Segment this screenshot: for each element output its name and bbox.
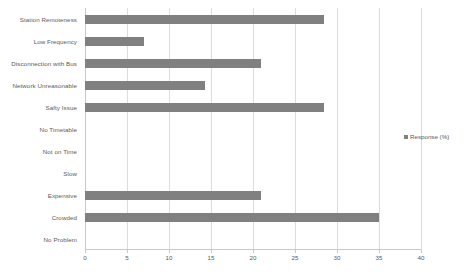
category-label: Expensive (0, 184, 82, 206)
category-label: No Problem (0, 228, 82, 250)
bar-row (85, 206, 421, 228)
x-tick-label: 40 (418, 254, 425, 261)
bar-row (85, 52, 421, 74)
x-tick-label: 15 (208, 254, 215, 261)
plot-area (85, 8, 421, 250)
x-tick-label: 25 (292, 254, 299, 261)
bar (85, 37, 144, 46)
x-tick-label: 30 (334, 254, 341, 261)
bar-row (85, 118, 421, 140)
x-tick-mark (85, 250, 86, 253)
category-label: Crowded (0, 206, 82, 228)
value-axis: 0510152025303540 (85, 250, 421, 264)
bar (85, 213, 379, 222)
bar-row (85, 140, 421, 162)
category-label: Safty Issue (0, 96, 82, 118)
bar-row (85, 162, 421, 184)
bar-row (85, 184, 421, 206)
x-tick-label: 10 (166, 254, 173, 261)
category-label: Low Frequency (0, 30, 82, 52)
legend-swatch-response (404, 135, 408, 139)
bar (85, 15, 324, 24)
x-tick-label: 5 (125, 254, 128, 261)
x-tick-label: 35 (376, 254, 383, 261)
bar (85, 59, 261, 68)
gridline (421, 8, 422, 250)
bar (85, 81, 205, 90)
x-tick-mark (295, 250, 296, 253)
category-label: Not on Time (0, 140, 82, 162)
bars-layer (85, 8, 421, 250)
bar (85, 103, 324, 112)
bar-row (85, 30, 421, 52)
category-label: Network Unreasonable (0, 74, 82, 96)
bar-row (85, 228, 421, 250)
category-axis: Station RemotenessLow FrequencyDisconnec… (0, 8, 82, 250)
x-tick-mark (169, 250, 170, 253)
bar-row (85, 96, 421, 118)
legend-label-response: Response (%) (410, 133, 449, 140)
category-label: Disconnection with Bus (0, 52, 82, 74)
chart-legend: Response (%) (404, 133, 449, 140)
x-tick-mark (379, 250, 380, 253)
bar-row (85, 74, 421, 96)
category-label: No Timetable (0, 118, 82, 140)
x-tick-mark (337, 250, 338, 253)
x-tick-mark (253, 250, 254, 253)
x-tick-mark (421, 250, 422, 253)
bar (85, 191, 261, 200)
bar-row (85, 8, 421, 30)
x-tick-mark (127, 250, 128, 253)
category-label: Slow (0, 162, 82, 184)
bar-chart: Station RemotenessLow FrequencyDisconnec… (0, 0, 474, 277)
x-tick-label: 20 (250, 254, 257, 261)
category-label: Station Remoteness (0, 8, 82, 30)
x-tick-label: 0 (83, 254, 86, 261)
x-tick-mark (211, 250, 212, 253)
